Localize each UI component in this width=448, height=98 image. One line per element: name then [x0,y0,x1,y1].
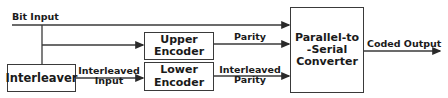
interleaved-input-line2: Input [95,75,123,86]
lower-encoder-line2: Encoder [154,77,204,89]
interleaved-parity-label: Interleaved Parity [218,65,282,86]
interleaved-input-line1: Interleaved [78,65,140,76]
converter-line3: Converter [296,56,358,68]
interleaver-block: Interleaver [7,64,76,92]
parallel-to-serial-converter-block: Parallel-to -Serial Converter [290,7,364,93]
upper-encoder-line2: Encoder [154,46,204,58]
interleaver-label: Interleaver [6,72,78,85]
lower-encoder-block: Lower Encoder [144,62,214,91]
parity-label: Parity [225,32,275,42]
interleaved-parity-line1: Interleaved [219,64,281,75]
lower-encoder-line1: Lower [160,64,198,76]
bit-input-label: Bit Input [12,12,59,22]
interleaved-parity-line2: Parity [234,74,266,85]
converter-line1: Parallel-to [295,32,359,44]
interleaved-input-label: Interleaved Input [78,66,140,87]
coded-output-label: Coded Output [367,39,441,49]
upper-encoder-block: Upper Encoder [144,32,214,60]
